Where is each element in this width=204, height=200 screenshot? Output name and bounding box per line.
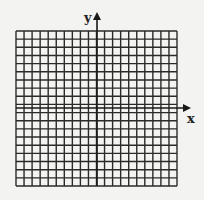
y-axis-label: y bbox=[84, 11, 92, 24]
coordinate-grid-diagram bbox=[0, 0, 204, 200]
x-axis-label: x bbox=[187, 112, 195, 125]
y-axis-arrowhead-icon bbox=[93, 12, 101, 20]
